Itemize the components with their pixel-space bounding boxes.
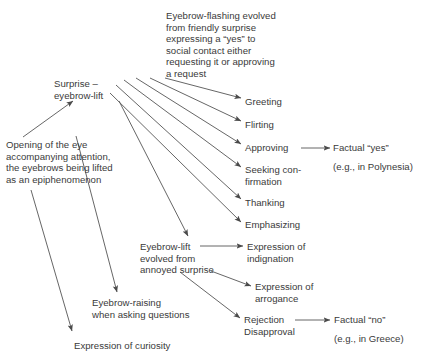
node-factual-no: Factual “no” [334,314,424,326]
node-rejection-disapproval: Rejection Disapproval [244,314,324,337]
node-expression-of-indignation: Expression of indignation [247,241,342,264]
diagram-canvas: Eyebrow-flashing evolved from friendly s… [0,0,427,360]
node-expression-of-arrogance: Expression of arrogance [255,281,350,304]
node-approving: Approving [245,142,325,154]
node-eyebrow-lift-annoyed: Eyebrow-lift evolved from annoyed surpri… [140,241,245,276]
node-flirting: Flirting [245,119,325,131]
node-factual-yes: Factual “yes” [333,142,427,154]
node-emphasizing: Emphasizing [245,219,335,231]
node-seeking-confirmation: Seeking con- firmation [245,164,325,187]
edge-surprise-to-curiosity [31,190,72,331]
node-opening-of-the-eye: Opening of the eye accompanying attentio… [6,139,176,185]
edge-opening-to-surprise [23,101,73,137]
node-factual-yes-note: (e.g., in Polynesia) [333,161,427,173]
node-eyebrow-raising-questions: Eyebrow-raising when asking questions [92,297,237,320]
node-eyebrow-flashing: Eyebrow-flashing evolved from friendly s… [166,10,346,80]
edge-surprise-to-greeting [165,78,241,98]
node-surprise-eyebrow-lift: Surprise – eyebrow-lift [54,78,164,101]
node-expression-of-curiosity: Expression of curiosity [74,340,219,352]
node-thanking: Thanking [245,197,325,209]
node-greeting: Greeting [245,96,325,108]
node-factual-no-note: (e.g., in Greece) [334,333,427,345]
